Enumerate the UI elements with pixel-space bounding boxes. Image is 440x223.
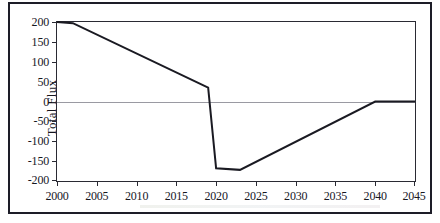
x-tick-2015 — [176, 181, 177, 186]
x-tick-2035 — [335, 181, 336, 186]
y-tick-label-50: 50 — [37, 74, 49, 89]
plot-inner: 200 150 100 50 0 -50 -100 -150 -200 2000… — [57, 22, 415, 181]
flux-line-chart — [57, 22, 415, 181]
x-tick-label-2010: 2010 — [125, 189, 148, 204]
x-tick-2000 — [57, 181, 58, 186]
y-tick-label-neg200: -200 — [28, 173, 49, 188]
x-tick-2045 — [414, 181, 415, 186]
y-tick-label-neg100: -100 — [28, 134, 49, 149]
y-tick-label-0: 0 — [43, 94, 49, 109]
y-tick-label-100: 100 — [32, 54, 49, 69]
x-tick-label-2035: 2035 — [324, 189, 347, 204]
figure-container: Total Flux 200 150 100 50 0 -50 -100 -15… — [0, 0, 440, 223]
x-tick-2020 — [216, 181, 217, 186]
x-tick-label-2040: 2040 — [364, 189, 387, 204]
x-tick-label-2000: 2000 — [45, 189, 68, 204]
x-tick-label-2045: 2045 — [402, 189, 425, 204]
x-tick-2005 — [97, 181, 98, 186]
x-tick-label-2005: 2005 — [85, 189, 108, 204]
x-tick-label-2015: 2015 — [165, 189, 188, 204]
x-tick-2040 — [375, 181, 376, 186]
flux-series-line — [57, 22, 415, 170]
x-tick-2030 — [296, 181, 297, 186]
x-tick-label-2025: 2025 — [244, 189, 267, 204]
cut-off-caption — [28, 0, 358, 8]
scan-artifact — [140, 205, 380, 208]
y-tick-label-neg50: -50 — [34, 114, 49, 129]
x-tick-label-2020: 2020 — [204, 189, 227, 204]
y-tick-label-neg150: -150 — [28, 154, 49, 169]
plot-area: 200 150 100 50 0 -50 -100 -150 -200 2000… — [56, 21, 416, 182]
y-tick-label-150: 150 — [32, 34, 49, 49]
y-tick-label-200: 200 — [32, 15, 49, 30]
x-tick-2010 — [137, 181, 138, 186]
x-tick-label-2030: 2030 — [284, 189, 307, 204]
x-tick-2025 — [256, 181, 257, 186]
